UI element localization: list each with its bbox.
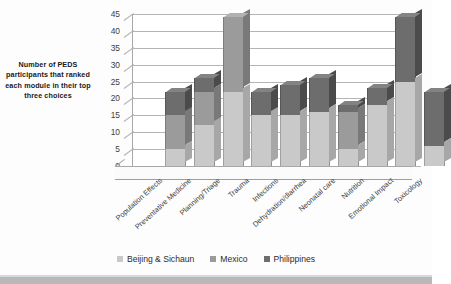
x-axis-tick-labels: Population EffectsPreventative MedicineP… [96, 176, 432, 246]
gridline-depth-connector [124, 97, 134, 105]
bar-series-group [160, 14, 448, 166]
y-axis-title: Number of PEDS participants that ranked … [4, 60, 92, 102]
bar-segment[interactable] [395, 17, 416, 81]
gridline-depth-connector [124, 81, 134, 89]
bar-column[interactable] [165, 92, 184, 166]
y-axis-tick: 45 [96, 9, 120, 19]
y-axis-tick: 20 [96, 93, 120, 103]
bar-segment-side-face [214, 117, 221, 162]
bar-segment[interactable] [165, 149, 186, 166]
legend-item[interactable]: Philippines [264, 254, 316, 264]
bar-segment-side-face [243, 84, 250, 162]
bar-segment-side-face [185, 107, 192, 145]
bar-column[interactable] [223, 17, 242, 166]
bar-segment[interactable] [280, 85, 301, 115]
legend-label: Philippines [274, 254, 316, 264]
y-axis-tick: 25 [96, 77, 120, 87]
bar-segment[interactable] [338, 149, 359, 166]
bar-segment-side-face [415, 74, 422, 162]
bar-column[interactable] [424, 92, 443, 166]
bar-segment-side-face [329, 104, 336, 162]
bar-segment-side-face [185, 141, 192, 162]
legend-swatch-icon [117, 256, 123, 262]
y-axis-tick: 15 [96, 110, 120, 120]
y-axis-tick: 40 [96, 26, 120, 36]
y-axis-tick: 10 [96, 127, 120, 137]
bar-segment[interactable] [223, 17, 244, 91]
bar-segment[interactable] [338, 105, 359, 112]
gridline-depth-connector [124, 148, 134, 156]
bar-segment-side-face [300, 107, 307, 162]
bar-segment[interactable] [395, 82, 416, 166]
gridline-depth-connector [124, 131, 134, 139]
legend-swatch-icon [210, 256, 216, 262]
y-axis-tick: 5 [96, 144, 120, 154]
bar-segment[interactable] [251, 92, 272, 116]
bar-column[interactable] [194, 78, 213, 166]
legend-label: Mexico [220, 254, 247, 264]
bar-segment[interactable] [165, 115, 186, 149]
bar-column[interactable] [309, 78, 328, 166]
bar-segment-side-face [387, 97, 394, 162]
bar-segment[interactable] [194, 125, 215, 166]
bar-segment[interactable] [309, 112, 330, 166]
bar-column[interactable] [280, 85, 299, 166]
bar-column[interactable] [338, 105, 357, 166]
y-axis-tick: 30 [96, 60, 120, 70]
gridline-depth-connector [124, 30, 134, 38]
bar-segment-side-face [271, 107, 278, 162]
bar-segment-side-face [415, 9, 422, 77]
chart-legend: Beijing & SichaunMexicoPhilippines [0, 254, 432, 264]
bar-segment-side-face [358, 141, 365, 162]
plot-area: 454035302520151050 [96, 14, 420, 180]
legend-swatch-icon [264, 256, 270, 262]
gridline-depth-connector [124, 114, 134, 122]
x-axis-tick: Nutrition [340, 176, 366, 201]
y-axis-tick-labels: 454035302520151050 [96, 14, 122, 180]
bar-segment[interactable] [367, 105, 388, 166]
x-axis-tick: Toxicology [392, 176, 424, 206]
bar-segment[interactable] [194, 78, 215, 92]
x-axis-tick: Trauma [226, 176, 251, 200]
bar-column[interactable] [395, 17, 414, 166]
gridline-depth-connector [124, 47, 134, 55]
bar-segment-side-face [444, 138, 451, 162]
gridline-depth-connector [124, 64, 134, 72]
bar-segment[interactable] [251, 115, 272, 166]
bar-segment[interactable] [424, 146, 445, 166]
page-edge-strip [0, 277, 432, 284]
legend-label: Beijing & Sichaun [127, 254, 194, 264]
bar-segment[interactable] [223, 92, 244, 166]
grid-area [124, 14, 420, 180]
bar-segment[interactable] [424, 92, 445, 146]
bar-column[interactable] [367, 88, 386, 166]
bar-segment-side-face [358, 104, 365, 145]
bar-segment-side-face [444, 84, 451, 142]
legend-item[interactable]: Mexico [210, 254, 247, 264]
bar-segment[interactable] [338, 112, 359, 149]
bar-segment[interactable] [194, 92, 215, 126]
bar-segment[interactable] [280, 115, 301, 166]
bar-segment-side-face [243, 9, 250, 87]
bar-segment[interactable] [367, 88, 388, 105]
bar-column[interactable] [251, 92, 270, 166]
gridline-depth-connector [124, 13, 134, 21]
y-axis-tick: 35 [96, 43, 120, 53]
bar-segment-side-face [214, 84, 221, 122]
bar-segment[interactable] [309, 78, 330, 112]
legend-item[interactable]: Beijing & Sichaun [117, 254, 194, 264]
x-axis-tick: Population Effects [114, 176, 164, 222]
bar-segment[interactable] [165, 92, 186, 116]
